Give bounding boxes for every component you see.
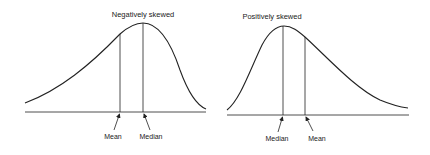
positive-skew-curve bbox=[227, 26, 408, 110]
negative-skew-panel: Negatively skewed Mean Median bbox=[25, 10, 206, 140]
negative-skew-curve bbox=[25, 23, 206, 109]
median-label: Median bbox=[266, 135, 289, 142]
median-arrow bbox=[144, 114, 150, 130]
mean-arrow bbox=[114, 114, 120, 130]
skewness-diagram: Negatively skewed Mean Median Positively… bbox=[0, 0, 430, 155]
median-label: Median bbox=[140, 133, 163, 140]
median-arrow bbox=[278, 117, 283, 132]
positive-skew-title: Positively skewed bbox=[242, 12, 301, 21]
mean-label: Mean bbox=[308, 135, 326, 142]
positive-skew-panel: Positively skewed Median Mean bbox=[227, 12, 409, 142]
negative-skew-title: Negatively skewed bbox=[112, 10, 175, 19]
mean-label: Mean bbox=[104, 133, 122, 140]
mean-arrow bbox=[306, 117, 313, 131]
